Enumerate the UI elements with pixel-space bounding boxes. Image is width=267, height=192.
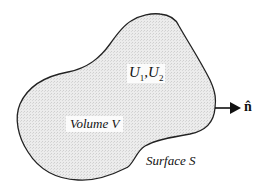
volume-label: Volume V [66, 116, 123, 132]
diagram-canvas [0, 0, 267, 192]
normal-vector-label: n̂ [244, 99, 252, 115]
normal-arrow-head [230, 102, 241, 114]
surface-label: Surface S [146, 153, 195, 169]
fields-label: U1,U2 [127, 64, 165, 83]
